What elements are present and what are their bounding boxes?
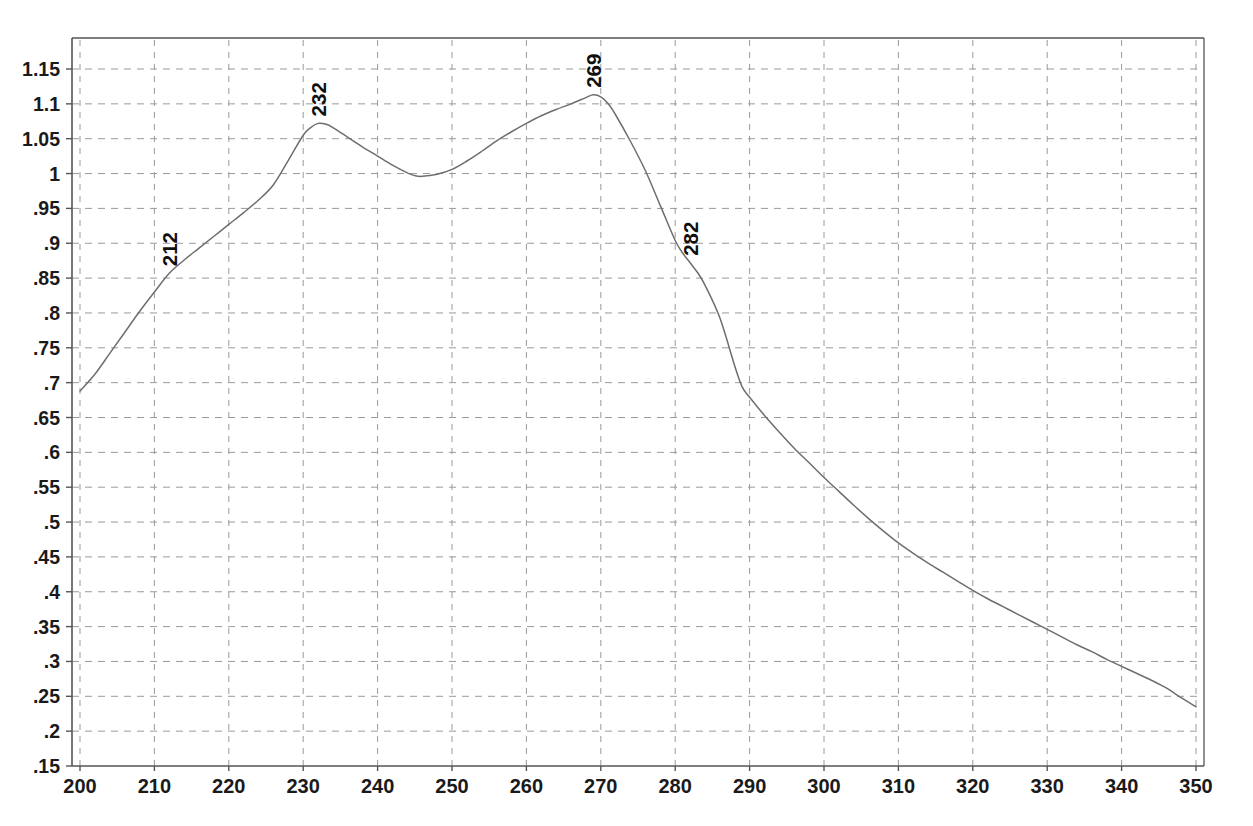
x-tick-label: 310 [882,775,915,797]
y-tick-label: 1.1 [33,93,60,115]
x-tick-label: 280 [659,775,692,797]
y-tick-label: .6 [44,441,60,463]
y-tick-label: .25 [33,685,60,707]
y-tick-label: .75 [33,337,60,359]
spectrum-chart: .15.2.25.3.35.4.45.5.55.6.65.7.75.8.85.9… [0,0,1253,826]
y-tick-label: .5 [44,511,60,533]
y-tick-label: .95 [33,197,60,219]
peak-label: 269 [582,54,605,88]
chart-background [0,0,1253,826]
x-tick-label: 210 [138,775,171,797]
peak-label: 212 [158,232,181,266]
x-tick-label: 200 [63,775,96,797]
x-tick-label: 340 [1105,775,1138,797]
peak-annotation: 282 [679,222,702,256]
peak-annotation: 269 [582,54,605,88]
y-tick-label: .15 [33,755,60,777]
x-tick-label: 230 [287,775,320,797]
x-tick-label: 350 [1179,775,1212,797]
peak-annotation: 212 [158,232,181,266]
x-tick-label: 240 [361,775,394,797]
x-tick-label: 220 [212,775,245,797]
x-tick-label: 300 [807,775,840,797]
peak-label: 232 [307,82,330,116]
y-tick-label: .9 [44,232,60,254]
x-tick-label: 290 [733,775,766,797]
y-tick-label: .4 [44,581,60,603]
y-tick-label: 1.15 [22,58,60,80]
peak-annotation: 232 [307,82,330,116]
y-tick-label: .3 [44,650,60,672]
y-tick-label: .7 [44,372,60,394]
y-tick-label: .8 [44,302,60,324]
y-tick-label: .45 [33,546,60,568]
x-tick-label: 250 [435,775,468,797]
chart-canvas: .15.2.25.3.35.4.45.5.55.6.65.7.75.8.85.9… [0,0,1253,826]
peak-label: 282 [679,222,702,256]
y-tick-label: .35 [33,616,60,638]
x-tick-label: 320 [956,775,989,797]
x-tick-label: 270 [584,775,617,797]
y-tick-label: .65 [33,407,60,429]
x-tick-label: 330 [1031,775,1064,797]
x-tick-label: 260 [510,775,543,797]
y-tick-label: .2 [44,720,60,742]
y-tick-label: 1.05 [22,128,60,150]
y-tick-label: .85 [33,267,60,289]
y-axis-tick-marks [66,69,72,766]
y-tick-label: .55 [33,476,60,498]
y-tick-label: 1 [49,163,60,185]
